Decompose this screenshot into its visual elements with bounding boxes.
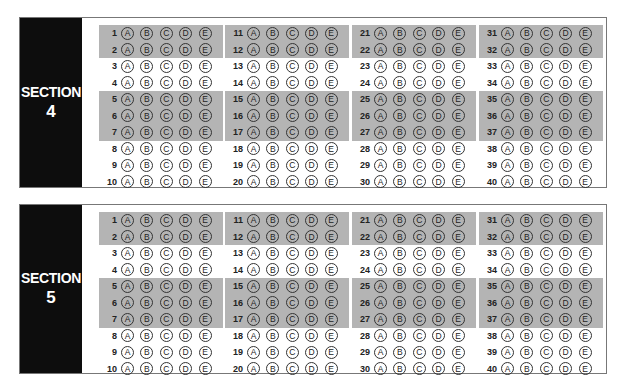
answer-bubble-e[interactable]: E <box>325 346 338 359</box>
answer-bubble-c[interactable]: C <box>160 60 173 73</box>
answer-bubble-d[interactable]: D <box>559 126 572 139</box>
answer-bubble-c[interactable]: C <box>286 126 299 139</box>
answer-bubble-e[interactable]: E <box>325 175 338 188</box>
answer-bubble-c[interactable]: C <box>160 230 173 243</box>
answer-bubble-b[interactable]: B <box>140 43 153 56</box>
answer-bubble-c[interactable]: C <box>160 247 173 260</box>
answer-bubble-a[interactable]: A <box>374 280 387 293</box>
answer-bubble-b[interactable]: B <box>393 329 406 342</box>
answer-bubble-a[interactable]: A <box>501 93 514 106</box>
answer-bubble-a[interactable]: A <box>121 362 134 375</box>
answer-bubble-b[interactable]: B <box>520 43 533 56</box>
answer-bubble-a[interactable]: A <box>374 214 387 227</box>
answer-bubble-e[interactable]: E <box>452 329 465 342</box>
answer-bubble-e[interactable]: E <box>452 126 465 139</box>
answer-bubble-e[interactable]: E <box>199 296 212 309</box>
answer-bubble-c[interactable]: C <box>160 142 173 155</box>
answer-bubble-c[interactable]: C <box>286 280 299 293</box>
answer-bubble-c[interactable]: C <box>413 346 426 359</box>
answer-bubble-b[interactable]: B <box>266 76 279 89</box>
answer-bubble-d[interactable]: D <box>432 109 445 122</box>
answer-bubble-b[interactable]: B <box>140 93 153 106</box>
answer-bubble-d[interactable]: D <box>179 263 192 276</box>
answer-bubble-a[interactable]: A <box>247 27 260 40</box>
answer-bubble-c[interactable]: C <box>286 362 299 375</box>
answer-bubble-a[interactable]: A <box>121 280 134 293</box>
answer-bubble-b[interactable]: B <box>393 346 406 359</box>
answer-bubble-a[interactable]: A <box>121 142 134 155</box>
answer-bubble-a[interactable]: A <box>501 263 514 276</box>
answer-bubble-e[interactable]: E <box>325 280 338 293</box>
answer-bubble-e[interactable]: E <box>452 27 465 40</box>
answer-bubble-a[interactable]: A <box>374 247 387 260</box>
answer-bubble-d[interactable]: D <box>305 126 318 139</box>
answer-bubble-d[interactable]: D <box>179 27 192 40</box>
answer-bubble-c[interactable]: C <box>540 43 553 56</box>
answer-bubble-e[interactable]: E <box>579 93 592 106</box>
answer-bubble-d[interactable]: D <box>559 159 572 172</box>
answer-bubble-b[interactable]: B <box>520 214 533 227</box>
answer-bubble-b[interactable]: B <box>393 247 406 260</box>
answer-bubble-c[interactable]: C <box>413 159 426 172</box>
answer-bubble-e[interactable]: E <box>452 159 465 172</box>
answer-bubble-c[interactable]: C <box>540 362 553 375</box>
answer-bubble-a[interactable]: A <box>374 263 387 276</box>
answer-bubble-a[interactable]: A <box>247 76 260 89</box>
answer-bubble-e[interactable]: E <box>452 346 465 359</box>
answer-bubble-a[interactable]: A <box>501 214 514 227</box>
answer-bubble-d[interactable]: D <box>432 27 445 40</box>
answer-bubble-d[interactable]: D <box>559 313 572 326</box>
answer-bubble-c[interactable]: C <box>413 109 426 122</box>
answer-bubble-b[interactable]: B <box>266 142 279 155</box>
answer-bubble-b[interactable]: B <box>520 93 533 106</box>
answer-bubble-c[interactable]: C <box>540 27 553 40</box>
answer-bubble-e[interactable]: E <box>199 247 212 260</box>
answer-bubble-c[interactable]: C <box>413 93 426 106</box>
answer-bubble-d[interactable]: D <box>305 93 318 106</box>
answer-bubble-b[interactable]: B <box>393 280 406 293</box>
answer-bubble-e[interactable]: E <box>199 126 212 139</box>
answer-bubble-c[interactable]: C <box>286 175 299 188</box>
answer-bubble-a[interactable]: A <box>121 76 134 89</box>
answer-bubble-d[interactable]: D <box>305 362 318 375</box>
answer-bubble-a[interactable]: A <box>247 43 260 56</box>
answer-bubble-e[interactable]: E <box>579 126 592 139</box>
answer-bubble-d[interactable]: D <box>432 280 445 293</box>
answer-bubble-b[interactable]: B <box>393 126 406 139</box>
answer-bubble-c[interactable]: C <box>160 175 173 188</box>
answer-bubble-a[interactable]: A <box>247 313 260 326</box>
answer-bubble-b[interactable]: B <box>140 247 153 260</box>
answer-bubble-b[interactable]: B <box>140 362 153 375</box>
answer-bubble-b[interactable]: B <box>140 109 153 122</box>
answer-bubble-a[interactable]: A <box>374 93 387 106</box>
answer-bubble-c[interactable]: C <box>413 175 426 188</box>
answer-bubble-c[interactable]: C <box>160 313 173 326</box>
answer-bubble-c[interactable]: C <box>413 313 426 326</box>
answer-bubble-b[interactable]: B <box>393 60 406 73</box>
answer-bubble-d[interactable]: D <box>432 329 445 342</box>
answer-bubble-d[interactable]: D <box>179 247 192 260</box>
answer-bubble-e[interactable]: E <box>579 230 592 243</box>
answer-bubble-d[interactable]: D <box>432 230 445 243</box>
answer-bubble-a[interactable]: A <box>247 109 260 122</box>
answer-bubble-b[interactable]: B <box>520 142 533 155</box>
answer-bubble-c[interactable]: C <box>540 76 553 89</box>
answer-bubble-a[interactable]: A <box>121 175 134 188</box>
answer-bubble-c[interactable]: C <box>286 60 299 73</box>
answer-bubble-e[interactable]: E <box>452 43 465 56</box>
answer-bubble-d[interactable]: D <box>432 313 445 326</box>
answer-bubble-a[interactable]: A <box>247 230 260 243</box>
answer-bubble-a[interactable]: A <box>121 109 134 122</box>
answer-bubble-b[interactable]: B <box>266 175 279 188</box>
answer-bubble-a[interactable]: A <box>121 126 134 139</box>
answer-bubble-b[interactable]: B <box>140 126 153 139</box>
answer-bubble-c[interactable]: C <box>413 126 426 139</box>
answer-bubble-d[interactable]: D <box>559 109 572 122</box>
answer-bubble-d[interactable]: D <box>305 142 318 155</box>
answer-bubble-d[interactable]: D <box>305 43 318 56</box>
answer-bubble-b[interactable]: B <box>266 126 279 139</box>
answer-bubble-c[interactable]: C <box>160 280 173 293</box>
answer-bubble-c[interactable]: C <box>160 329 173 342</box>
answer-bubble-d[interactable]: D <box>432 142 445 155</box>
answer-bubble-e[interactable]: E <box>199 142 212 155</box>
